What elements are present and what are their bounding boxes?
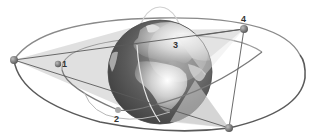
satellite-1 [55,61,61,67]
label-2: 2 [114,114,119,124]
label-3: 3 [173,40,178,50]
satellite-bottom [225,124,233,132]
satellite-left [10,56,18,64]
orbit-diagram: 1 2 3 4 [0,0,314,138]
label-4: 4 [241,14,246,24]
satellite-2 [115,107,121,113]
satellite-4 [240,25,248,33]
label-1: 1 [62,59,67,69]
